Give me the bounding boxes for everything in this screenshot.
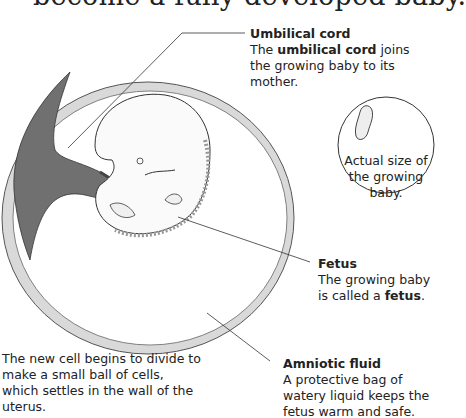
amniotic-fluid-label: Amniotic fluid A protective bag of water… [283,356,435,418]
umbilical-cord-label: Umbilical cord The umbilical cord joins … [250,26,434,90]
fetus-heading: Fetus [318,256,436,272]
umbilical-cord-text-part: The [250,42,277,57]
fetus-label: Fetus The growing baby is called a fetus… [318,256,436,304]
amniotic-fluid-text: A protective bag of watery liquid keeps … [283,372,429,418]
fetus-bold: fetus [385,288,421,303]
umbilical-cord-bold: umbilical cord [277,42,376,57]
fetus-text-part: . [421,288,425,303]
amniotic-fluid-heading: Amniotic fluid [283,356,435,372]
cell-division-label: The new cell begins to divide to make a … [2,351,202,415]
umbilical-cord-heading: Umbilical cord [250,26,434,42]
actual-size-caption: Actual size of the growing baby. [338,153,434,201]
